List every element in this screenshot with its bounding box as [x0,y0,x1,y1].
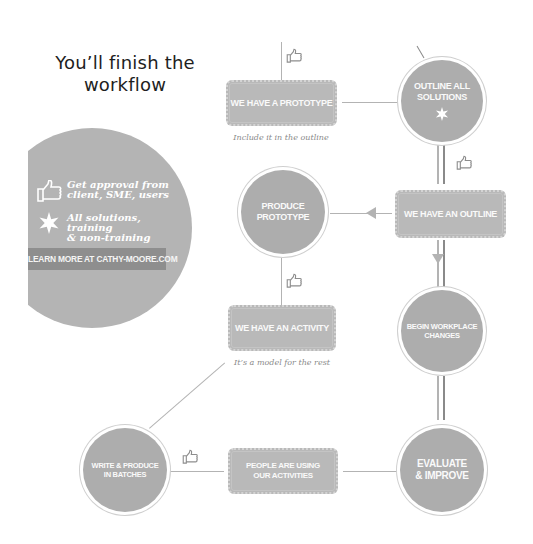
thumbs-up-icon [456,155,472,171]
node-label-line2: PROTOTYPE [257,212,310,223]
connector-outline-produce [330,213,392,214]
title-line-1: You’ll finish the [40,52,210,74]
node-label-line2: CHANGES [424,331,459,340]
arrow-down-icon [432,254,444,264]
node-label-line1: OUTLINE ALL [414,81,470,92]
node-write-produce-batches[interactable]: WRITE & PRODUCE IN BATCHES [83,428,167,512]
node-we-have-a-prototype[interactable]: WE HAVE A PROTOTYPE [226,80,337,126]
node-we-have-an-activity[interactable]: WE HAVE AN ACTIVITY [228,305,336,351]
connector-outline-down-b [443,142,445,184]
node-label-line2: SOLUTIONS [417,92,467,103]
legend-solutions-text: All solutions, training & non-training [67,213,187,243]
node-label-line1: BEGIN WORKPLACE [407,322,478,331]
caption-include-outline: Include it in the outline [220,133,342,142]
legend-approval-text: Get approval from client, SME, users [67,180,177,200]
star-icon [38,212,60,234]
connector-prototype-outline [342,102,402,103]
caption-model-for-rest: It’s a model for the rest [222,358,342,367]
node-produce-prototype[interactable]: PRODUCE PROTOTYPE [241,170,325,254]
node-people-using-activities[interactable]: PEOPLE ARE USING OUR ACTIVITIES [228,448,338,494]
node-label-line1: PEOPLE ARE USING [246,461,320,471]
connector-outline-begin-a [437,240,439,288]
connector-begin-evaluate-b [443,376,445,420]
connector-begin-evaluate-a [437,376,439,420]
node-we-have-an-outline[interactable]: WE HAVE AN OUTLINE [395,190,506,238]
page-title: You’ll finish the workflow [40,52,210,96]
node-label-line2: OUR ACTIVITIES [246,471,320,481]
node-label-line1: PRODUCE [262,201,305,212]
connector-top-prototype [281,42,282,80]
connector-outline-begin-b [443,240,445,288]
legend-panel-clip [0,0,28,544]
connector-outline-down-a [437,142,439,184]
connector-write-people [168,471,224,472]
node-label-line2: & IMPROVE [415,470,468,482]
node-label-line1: WRITE & PRODUCE [92,461,159,470]
node-outline-all-solutions[interactable]: OUTLINE ALL SOLUTIONS [401,60,483,142]
star-icon [435,107,449,121]
thumbs-up-icon [36,180,62,202]
connector-diagonal-top [417,46,425,59]
thumbs-up-icon [286,273,302,289]
node-label-line2: IN BATCHES [104,470,146,479]
node-label: WE HAVE A PROTOTYPE [231,98,333,108]
connector-people-evaluate [343,471,397,472]
thumbs-up-icon [182,449,198,465]
thumbs-up-icon [286,48,302,64]
arrow-left-icon [366,207,376,219]
connector-produce-activity [281,258,282,305]
node-label-line1: EVALUATE [417,458,467,470]
title-line-2: workflow [40,74,210,96]
node-label: WE HAVE AN OUTLINE [404,209,497,219]
node-evaluate-improve[interactable]: EVALUATE & IMPROVE [400,428,484,512]
learn-more-link[interactable]: LEARN MORE AT CATHY-MOORE.COM [28,248,166,270]
node-begin-workplace-changes[interactable]: BEGIN WORKPLACE CHANGES [401,290,483,372]
node-label: WE HAVE AN ACTIVITY [235,323,329,333]
connector-activity-write [149,362,225,428]
